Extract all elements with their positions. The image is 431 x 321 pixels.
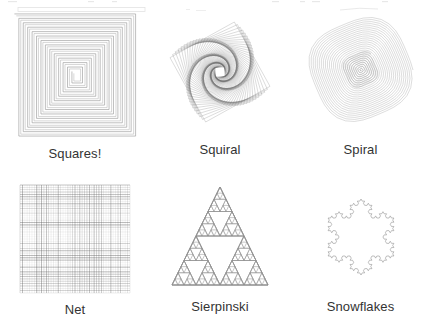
net-grid-figure <box>19 184 131 294</box>
figure-caption-sierpinski: Sierpinski <box>191 300 248 313</box>
polygon-spiral-figure <box>299 12 423 134</box>
figure-cell-net[interactable]: Net <box>0 160 150 321</box>
figure-caption-net: Net <box>65 303 86 316</box>
squiral-pinwheel-figure <box>158 12 282 134</box>
figure-cell-snowflakes[interactable]: Snowflakes <box>290 160 431 321</box>
sierpinski-triangle-figure <box>170 184 270 291</box>
figure-cell-spiral[interactable]: Spiral <box>290 0 431 160</box>
figure-caption-squares: Squares! <box>49 147 102 160</box>
figure-grid: Squares! Squiral Spiral Net Sierpinski S… <box>0 0 431 321</box>
figure-caption-spiral: Spiral <box>344 143 378 156</box>
square-spiral-figure <box>10 12 140 138</box>
figure-caption-squiral: Squiral <box>199 143 240 156</box>
figure-cell-squiral[interactable]: Squiral <box>150 0 290 160</box>
figure-caption-snowflakes: Snowflakes <box>327 300 394 313</box>
figure-cell-squares[interactable]: Squares! <box>0 0 150 160</box>
figure-gallery-page: Squares! Squiral Spiral Net Sierpinski S… <box>0 0 431 321</box>
figure-cell-sierpinski[interactable]: Sierpinski <box>150 160 290 321</box>
koch-snowflake-figure <box>308 184 414 291</box>
